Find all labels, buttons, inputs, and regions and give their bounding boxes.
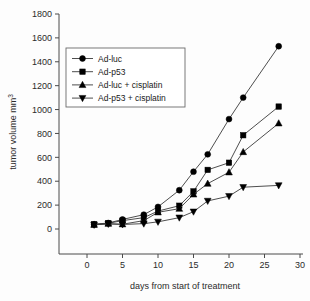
svg-text:tumor volume mm3: tumor volume mm3	[7, 94, 18, 170]
data-point	[205, 151, 211, 157]
x-tick-label: 5	[120, 260, 125, 270]
tumor-growth-line-chart: 020040060080010001200140016001800 051015…	[0, 0, 310, 301]
data-point	[240, 148, 247, 154]
data-point	[176, 187, 182, 193]
x-axis: 051015202530	[59, 254, 305, 270]
data-point	[226, 116, 232, 122]
data-point	[205, 167, 210, 172]
x-tick-label: 15	[188, 260, 198, 270]
x-axis-title: days from start of treatment	[130, 281, 241, 291]
y-tick-label: 0	[47, 224, 52, 234]
chart-figure: 020040060080010001200140016001800 051015…	[0, 0, 310, 301]
legend-marker-circle	[80, 56, 86, 62]
y-tick-label: 200	[37, 200, 52, 210]
data-point	[240, 185, 247, 191]
y-tick-label: 400	[37, 176, 52, 186]
y-tick-label: 600	[37, 153, 52, 163]
x-tick-label: 10	[153, 260, 163, 270]
data-point	[276, 104, 281, 109]
y-tick-label: 800	[37, 129, 52, 139]
x-tick-label: 30	[295, 260, 305, 270]
series-line	[94, 107, 279, 225]
chart-legend: Ad-lucAd-p53Ad-luc + cisplatinAd-p53 + c…	[66, 48, 185, 107]
y-axis-title: tumor volume mm3	[7, 94, 18, 170]
data-point	[276, 43, 282, 49]
y-tick-label: 1400	[32, 57, 52, 67]
y-axis: 020040060080010001200140016001800	[32, 9, 59, 254]
legend-label: Ad-p53	[98, 67, 126, 77]
y-tick-label: 1200	[32, 81, 52, 91]
y-tick-label: 1600	[32, 33, 52, 43]
data-point	[226, 160, 231, 165]
x-tick-label: 20	[224, 260, 234, 270]
x-tick-label: 0	[84, 260, 89, 270]
x-tick-label: 25	[259, 260, 269, 270]
legend-label: Ad-p53 + cisplatin	[98, 93, 166, 103]
data-point	[275, 120, 282, 126]
series-line	[94, 123, 279, 224]
data-point	[204, 198, 211, 204]
data-point	[204, 180, 211, 186]
series-ad-p53	[91, 104, 281, 227]
data-point	[191, 169, 197, 175]
legend-label: Ad-luc + cisplatin	[98, 80, 163, 90]
data-point	[240, 95, 246, 101]
legend-label: Ad-luc	[98, 54, 123, 64]
y-tick-label: 1000	[32, 105, 52, 115]
series-ad-luc-cisplatin	[91, 120, 282, 228]
legend-marker-square	[80, 69, 85, 74]
data-point	[190, 209, 197, 215]
data-point	[240, 133, 245, 138]
y-tick-label: 1800	[32, 9, 52, 19]
